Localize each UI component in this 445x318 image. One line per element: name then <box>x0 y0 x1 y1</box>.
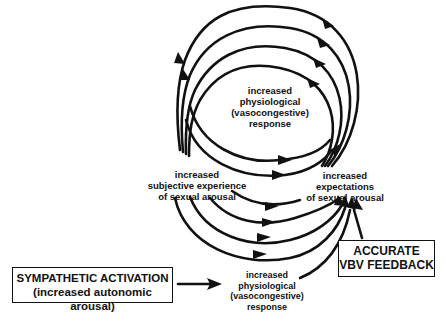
box-text-line: (increased autonomic arousal) <box>13 285 172 313</box>
box-text-line: VBV FEEDBACK <box>339 258 434 272</box>
node-text-line: expectations <box>300 181 390 192</box>
box-text-line: ACCURATE <box>339 244 434 258</box>
node-text-line: physiological <box>215 96 325 107</box>
box-text-line: SYMPATHETIC ACTIVATION <box>13 271 172 285</box>
sympathetic-activation-box: SYMPATHETIC ACTIVATION (increased autono… <box>12 267 173 303</box>
node-text-line: increased <box>222 270 312 281</box>
node-top-physiological-response: increased physiological (vasocongestive)… <box>215 85 325 129</box>
node-text-line: (vasocongestive) <box>215 107 325 118</box>
vbv-arrow-line <box>354 210 362 238</box>
node-text-line: increased <box>300 170 390 181</box>
node-text-line: physiological <box>222 281 312 292</box>
node-text-line: response <box>222 302 312 313</box>
node-expectations: increased expectations of sexual arousal <box>300 170 390 203</box>
node-bottom-physiological-response: increased physiological (vasocongestive)… <box>222 270 312 312</box>
node-text-line: increased <box>137 169 257 180</box>
node-text-line: increased <box>215 85 325 96</box>
accurate-vbv-feedback-box: ACCURATE VBV FEEDBACK <box>338 240 435 277</box>
node-text-line: of sexual arousal <box>300 192 390 203</box>
node-text-line: (vasocongestive) <box>222 291 312 302</box>
node-text-line: response <box>215 118 325 129</box>
node-text-line: subjective experience <box>137 180 257 191</box>
node-text-line: of sexual arousal <box>137 191 257 202</box>
node-subjective-experience: increased subjective experience of sexua… <box>137 169 257 202</box>
